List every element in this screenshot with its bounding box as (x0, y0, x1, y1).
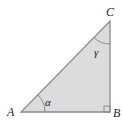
angle-label-alpha: α (45, 96, 51, 108)
angle-label-gamma: γ (94, 46, 99, 58)
triangle-diagram: A B C α γ (0, 0, 122, 124)
triangle-shape (21, 21, 110, 112)
vertex-label-b: B (113, 106, 121, 120)
vertex-label-c: C (106, 5, 115, 19)
vertex-label-a: A (6, 105, 15, 119)
